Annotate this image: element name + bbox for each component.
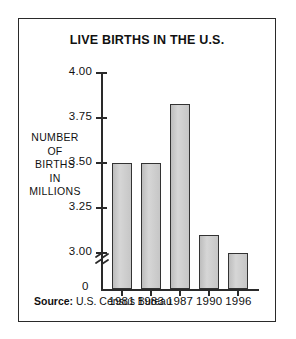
y-axis-tick-mark	[96, 207, 107, 209]
y-axis-title-line-4: IN	[21, 172, 89, 186]
axis-break-icon	[94, 251, 110, 269]
y-axis-tick-mark	[96, 117, 107, 119]
y-axis-tick-mark	[96, 162, 107, 164]
bar-1990	[199, 235, 219, 289]
y-axis-tick-label: 3.75	[69, 110, 92, 122]
source-label: Source:	[34, 295, 73, 307]
bar-1983	[141, 163, 161, 289]
bar-1987	[170, 104, 190, 289]
bar-1996	[228, 253, 248, 289]
y-axis-tick-mark	[96, 72, 107, 74]
plot-area: 4.003.753.503.253.00 0 19811983198719901…	[101, 55, 259, 291]
y-axis-zero-label: 0	[82, 280, 88, 292]
source-value: U.S. Census Bureau	[76, 295, 172, 307]
source-note: Source: U.S. Census Bureau	[34, 295, 172, 307]
y-axis-title-line-1: NUMBER	[21, 131, 89, 145]
x-axis-tick-label: 1996	[220, 295, 256, 307]
y-axis-tick-label: 4.00	[69, 65, 92, 77]
chart-title: LIVE BIRTHS IN THE U.S.	[19, 33, 275, 47]
bar-1981	[112, 163, 132, 289]
y-axis-tick-label: 3.25	[69, 200, 92, 212]
y-axis-tick-label: 3.50	[69, 155, 92, 167]
y-axis-tick-label: 3.00	[69, 245, 92, 257]
y-axis-title-line-5: MILLIONS	[21, 185, 89, 199]
chart-figure: LIVE BIRTHS IN THE U.S. NUMBER OF BIRTHS…	[18, 18, 276, 322]
